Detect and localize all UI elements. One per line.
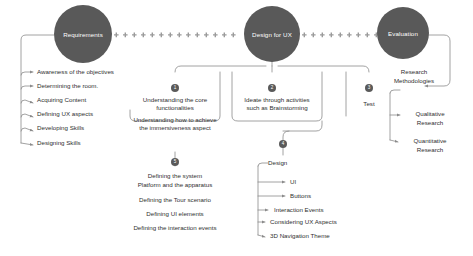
diagram-canvas: Requirements Design for UX Evaluation Aw… (0, 0, 473, 256)
branch-two-line-1: such as Brainstorming (222, 104, 332, 112)
design-item-2: Interaction Events (274, 206, 324, 214)
design-item-1: Buttons (290, 192, 311, 200)
step-badge-5: 5 (171, 158, 179, 166)
evaluation-item-0-line-1: Research (402, 119, 458, 127)
design-root-label: Design (268, 159, 287, 167)
branch-three-line-0: Test (344, 100, 394, 108)
system-item-1: Platform and the apparatus (110, 181, 240, 189)
step-badge-1: 1 (171, 84, 179, 92)
branch-one-line-1: functionalities (120, 104, 230, 112)
evaluation-root-line-0: Research (386, 68, 442, 76)
phase-node-requirements[interactable]: Requirements (54, 5, 112, 63)
requirements-item-0: Awareness of the objectives (37, 68, 114, 76)
step-badge-4: 4 (279, 140, 287, 148)
phase-label-requirements: Requirements (63, 31, 103, 38)
requirements-item-4: Developing Skills (37, 124, 84, 132)
system-item-2: Defining the Tour scenario (110, 196, 240, 204)
step-badge-3: 3 (365, 84, 373, 92)
dotted-connector-2 (293, 33, 379, 38)
requirements-item-3: Defining UX aspects (37, 110, 93, 118)
system-item-3: Defining UI elements (110, 210, 240, 218)
requirements-item-5: Designing Skills (37, 139, 81, 147)
step-badge-2: 2 (268, 84, 276, 92)
system-item-4: Defining the interaction events (104, 224, 246, 232)
branch-one-line-3: the immersiveness aspect (113, 124, 237, 132)
evaluation-item-0-line-0: Qualitative (402, 110, 458, 118)
phase-label-design-for-ux: Design for UX (252, 31, 292, 38)
phase-node-evaluation[interactable]: Evaluation (377, 7, 429, 59)
phase-label-evaluation: Evaluation (388, 30, 418, 37)
requirements-item-1: Determining the room. (37, 82, 98, 90)
evaluation-item-1-line-0: Quantitative (400, 137, 460, 145)
design-root-line (258, 163, 268, 166)
branch-one-line-0: Understanding the core (120, 96, 230, 104)
design-item-3: Considering UX Aspects (270, 218, 337, 226)
system-item-0: Defining the system (115, 172, 235, 180)
dotted-connector-1 (96, 33, 236, 38)
phase-node-design-for-ux[interactable]: Design for UX (244, 6, 300, 62)
evaluation-root-line-1: Methodologies (380, 77, 448, 85)
design-item-0: UI (290, 178, 296, 186)
branch-one-line-2: Understanding how to achieve (113, 116, 237, 124)
branch-two-line-0: Ideate through activities (222, 96, 332, 104)
design-item-4: 3D Navigation Theme (270, 232, 330, 240)
evaluation-item-1-line-1: Research (400, 146, 460, 154)
requirements-item-2: Acquiring Content (37, 96, 86, 104)
